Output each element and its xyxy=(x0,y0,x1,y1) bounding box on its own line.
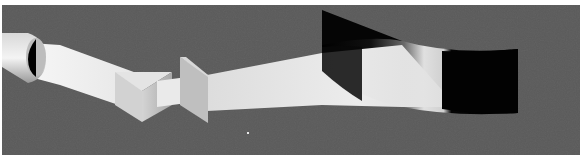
speck xyxy=(247,132,249,134)
optics-illustration xyxy=(2,5,580,155)
